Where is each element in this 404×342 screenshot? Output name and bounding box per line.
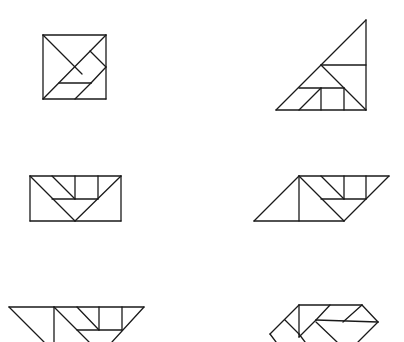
edge-line <box>299 320 316 337</box>
edge-line <box>321 176 344 199</box>
tangram-shape-partial <box>270 305 378 342</box>
tangram-parallelogram <box>254 176 389 221</box>
edge-line <box>316 320 378 322</box>
edge-line <box>9 307 44 342</box>
edge-line <box>285 320 299 334</box>
edge-line <box>52 176 75 199</box>
edge-line <box>316 322 337 342</box>
edge-line <box>112 307 144 342</box>
edge-line <box>90 51 106 67</box>
edge-line <box>358 322 378 342</box>
edge-line <box>75 83 91 99</box>
edge-line <box>54 307 89 342</box>
tangram-diagram-canvas <box>0 0 404 342</box>
edge-line <box>316 305 330 320</box>
edge-line <box>254 176 299 221</box>
edge-line <box>270 334 276 342</box>
edge-line <box>343 305 362 322</box>
tangram-square <box>43 35 106 99</box>
tangram-trapezoid-partial <box>9 307 144 342</box>
edge-line <box>91 67 106 83</box>
edge-line <box>362 305 378 322</box>
tangram-large-triangle <box>276 20 366 110</box>
edge-line <box>299 88 321 110</box>
tangram-rectangle <box>30 176 121 221</box>
edge-line <box>43 35 82 74</box>
edge-line <box>77 307 99 330</box>
